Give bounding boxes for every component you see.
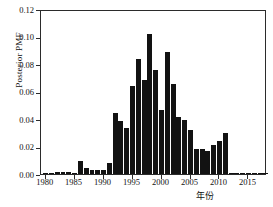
bar xyxy=(101,170,106,174)
bar xyxy=(211,145,216,174)
bar-series xyxy=(41,11,265,174)
bar xyxy=(252,173,257,174)
bar xyxy=(229,173,234,174)
y-axis-tick-label: 0.06 xyxy=(0,88,34,97)
y-axis-tick-label: 0.10 xyxy=(0,33,34,42)
bar xyxy=(78,161,83,174)
bar xyxy=(165,52,170,174)
bar xyxy=(72,173,77,174)
bar xyxy=(240,173,245,174)
bar xyxy=(188,130,193,174)
bar xyxy=(153,70,158,174)
posterior-pmf-bar-chart: Posterior PMF 0.000.020.040.060.080.100.… xyxy=(0,0,273,207)
bar xyxy=(61,172,66,174)
bar xyxy=(66,172,71,174)
bar xyxy=(43,173,48,174)
bar xyxy=(263,173,268,174)
bar xyxy=(171,84,176,174)
bar xyxy=(223,133,228,174)
bar xyxy=(130,86,135,174)
y-axis-tick-label: 0.02 xyxy=(0,143,34,152)
plot-area xyxy=(40,10,266,175)
bar xyxy=(194,149,199,174)
bar xyxy=(84,168,89,174)
bar xyxy=(258,173,263,174)
bar xyxy=(90,170,95,174)
bar xyxy=(246,173,251,174)
bar xyxy=(136,59,141,174)
bar xyxy=(49,173,54,174)
y-axis-tick-label: 0.08 xyxy=(0,61,34,70)
bar xyxy=(55,172,60,174)
bar xyxy=(176,117,181,174)
bar xyxy=(124,128,129,174)
bar xyxy=(217,141,222,174)
bar xyxy=(159,110,164,174)
bar xyxy=(200,149,205,174)
bar xyxy=(205,151,210,174)
bar xyxy=(182,120,187,174)
bar xyxy=(147,34,152,174)
y-axis-tick-label: 0.04 xyxy=(0,116,34,125)
bar xyxy=(95,170,100,174)
y-axis-tick-label: 0.12 xyxy=(0,6,34,15)
bar xyxy=(234,173,239,174)
x-axis-title: 年份 xyxy=(196,189,214,202)
x-axis-tick-label: 2015 xyxy=(227,178,267,187)
bar xyxy=(142,80,147,174)
bar xyxy=(113,113,118,174)
bar xyxy=(118,121,123,174)
y-axis-tick xyxy=(36,175,40,176)
bar xyxy=(107,163,112,174)
